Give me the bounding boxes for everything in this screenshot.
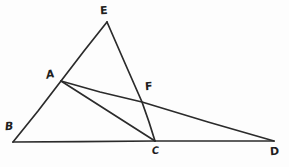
vertex-label-c: C [151,146,159,157]
geometry-figure-canvas: E A F B C D [0,0,289,167]
vertex-label-e: E [100,5,108,16]
segment-ad [61,81,274,141]
segment-be [13,22,107,142]
segment-ac [61,81,155,141]
vertex-label-b: B [5,121,14,133]
vertex-label-f: F [145,81,153,92]
segment-bd [13,141,274,142]
vertex-label-a: A [45,68,56,81]
vertex-label-d: D [270,146,280,158]
